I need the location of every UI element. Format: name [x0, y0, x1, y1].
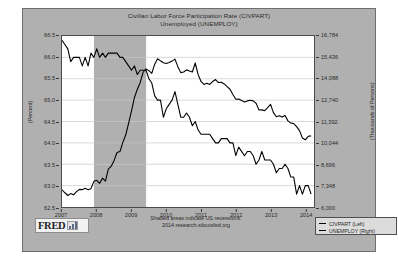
- chart-canvas: [62, 36, 314, 207]
- footer-recession-note: Shaded areas indicate US recessions.: [101, 215, 291, 222]
- y-axis-left-tick: 62.5: [44, 204, 55, 212]
- x-axis-tick-mark: [96, 209, 97, 212]
- legend-item-label: CIVPART (Left): [329, 221, 364, 227]
- y-axis-right-tick-mark: [316, 35, 319, 36]
- legend-item-label: UNEMPLOY (Right): [329, 228, 375, 234]
- fred-chart-panel: Civilian Labor Force Participation Rate …: [22, 8, 376, 252]
- y-axis-right-tick: 6,000: [321, 204, 335, 212]
- x-axis-tick: 2014: [300, 212, 312, 218]
- y-axis-left-tick-mark: [56, 100, 59, 101]
- y-axis-right-tick-mark: [316, 143, 319, 144]
- x-axis-tick-mark: [166, 209, 167, 212]
- y-axis-left-tick-mark: [56, 165, 59, 166]
- y-axis-left-tick: 65.0: [44, 96, 55, 104]
- y-axis-left-tick-mark: [56, 208, 59, 209]
- chart-title-line-2: Unemployed (UNEMPLOY): [23, 20, 375, 28]
- plot-area: [61, 35, 315, 208]
- y-axis-right-tick: 15,436: [321, 53, 338, 61]
- footer-note: Shaded areas indicate US recessions. 201…: [101, 215, 291, 230]
- y-axis-left-tick-mark: [56, 122, 59, 123]
- chart-legend: CIVPART (Left)UNEMPLOY (Right): [315, 217, 397, 235]
- y-axis-right-tick: 10,044: [321, 139, 338, 147]
- y-axis-left-tick: 64.5: [44, 118, 55, 126]
- y-axis-right-tick-mark: [316, 165, 319, 166]
- x-axis-tick-mark: [131, 209, 132, 212]
- y-axis-left-tick: 65.5: [44, 74, 55, 82]
- y-axis-right-tick: 14,088: [321, 74, 338, 82]
- y-axis-right-tick-mark: [316, 186, 319, 187]
- plot-wrapper: [61, 35, 315, 208]
- y-axis-left-tick-mark: [56, 35, 59, 36]
- y-axis-left-tick-mark: [56, 78, 59, 79]
- legend-item[interactable]: UNEMPLOY (Right): [319, 227, 396, 234]
- y-axis-right-tick: 8,696: [321, 161, 335, 169]
- y-axis-right-tick-mark: [316, 122, 319, 123]
- y-axis-left-label: (Percent): [27, 89, 33, 135]
- y-axis-right-tick-mark: [316, 57, 319, 58]
- y-axis-right-tick: 11,392: [321, 118, 338, 126]
- y-axis-left-tick: 66.5: [44, 31, 55, 39]
- legend-swatch-icon: [319, 230, 326, 231]
- y-axis-left-tick-mark: [56, 143, 59, 144]
- fred-logo-chart-icon: [67, 221, 78, 230]
- y-axis-left-tick-mark: [56, 57, 59, 58]
- x-axis-tick-mark: [236, 209, 237, 212]
- y-axis-right-tick: 12,740: [321, 96, 338, 104]
- y-axis-right-tick: 16,784: [321, 31, 338, 39]
- fred-logo-text: FRED: [38, 221, 65, 231]
- legend-item[interactable]: CIVPART (Left): [319, 220, 396, 227]
- x-axis-tick-mark: [61, 209, 62, 212]
- footer-source-note: 2014 research.stlouisfed.org: [101, 222, 291, 229]
- y-axis-left-tick-mark: [56, 186, 59, 187]
- y-axis-left-tick: 64.0: [44, 139, 55, 147]
- x-axis-tick-mark: [271, 209, 272, 212]
- y-axis-right-ticks: 6,0007,3488,69610,04411,39212,74014,0881…: [316, 35, 358, 208]
- x-axis-tick-mark: [201, 209, 202, 212]
- fred-logo[interactable]: FRED: [35, 218, 89, 233]
- y-axis-right-label: (Thousands of Persons): [369, 84, 375, 140]
- legend-swatch-icon: [319, 223, 326, 224]
- y-axis-right-tick-mark: [316, 100, 319, 101]
- y-axis-left-tick: 63.0: [44, 182, 55, 190]
- y-axis-right-tick-mark: [316, 208, 319, 209]
- y-axis-left-tick: 63.5: [44, 161, 55, 169]
- x-axis-tick-mark: [306, 209, 307, 212]
- y-axis-right-tick: 7,348: [321, 182, 335, 190]
- y-axis-right-tick-mark: [316, 78, 319, 79]
- chart-title-line-1: Civilian Labor Force Participation Rate …: [23, 12, 375, 20]
- y-axis-left-tick: 66.0: [44, 53, 55, 61]
- chart-title: Civilian Labor Force Participation Rate …: [23, 12, 375, 28]
